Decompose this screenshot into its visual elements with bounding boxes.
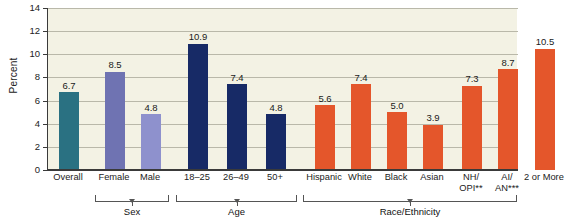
- bracket-tip-race: [407, 199, 413, 203]
- bar-value-label-hispanic: 5.6: [318, 94, 331, 106]
- y-axis-tick-label: 10: [18, 49, 40, 59]
- bar-value-label-white: 7.4: [354, 73, 367, 85]
- group-label-age: Age: [167, 206, 307, 217]
- bar-value-label-age-26-49: 7.4: [230, 73, 243, 85]
- x-axis-label-two-or-more: 2 or More: [504, 172, 569, 183]
- bar-value-label-two-or-more: 10.5: [536, 37, 555, 49]
- bar-two-or-more[interactable]: 10.5: [535, 49, 555, 171]
- bar-overall[interactable]: 6.7: [59, 92, 79, 170]
- y-axis-tick-label: 2: [18, 142, 40, 152]
- gridline: [48, 31, 518, 32]
- plot-area: 6.78.54.810.97.44.85.67.45.03.97.38.710.…: [47, 8, 517, 170]
- bar-value-label-overall: 6.7: [62, 81, 75, 93]
- y-axis-tick-label: 14: [18, 3, 40, 13]
- bar-age-26-49[interactable]: 7.4: [227, 84, 247, 170]
- bar-value-label-female: 8.5: [108, 60, 121, 72]
- bar-age-18-25[interactable]: 10.9: [188, 44, 208, 170]
- bracket-tip-age: [234, 199, 240, 203]
- bar-white[interactable]: 7.4: [351, 84, 371, 170]
- bar-black[interactable]: 5.0: [387, 112, 407, 170]
- bar-value-label-asian: 3.9: [426, 113, 439, 125]
- x-axis-line: [47, 169, 518, 171]
- gridline: [48, 8, 518, 9]
- y-axis-tick-label: 4: [18, 119, 40, 129]
- y-axis-tick-label: 6: [18, 96, 40, 106]
- bar-female[interactable]: 8.5: [105, 72, 125, 170]
- bar-value-label-black: 5.0: [390, 101, 403, 113]
- bar-value-label-age-18-25: 10.9: [189, 32, 208, 44]
- bar-value-label-age-50plus: 4.8: [269, 103, 282, 115]
- bar-value-label-male: 4.8: [144, 103, 157, 115]
- y-axis-title: Percent: [8, 31, 19, 121]
- bar-asian[interactable]: 3.9: [423, 125, 443, 170]
- bracket-tip-sex: [129, 199, 135, 203]
- bar-hispanic[interactable]: 5.6: [315, 105, 335, 170]
- bar-age-50plus[interactable]: 4.8: [266, 114, 286, 170]
- group-label-race: Race/Ethnicity: [340, 206, 480, 217]
- bar-nhopi[interactable]: 7.3: [462, 86, 482, 170]
- bar-aian[interactable]: 8.7: [498, 69, 518, 170]
- gridline: [48, 54, 518, 55]
- y-axis-tick-label: 8: [18, 72, 40, 82]
- bar-value-label-aian: 8.7: [501, 58, 514, 70]
- bar-male[interactable]: 4.8: [141, 114, 161, 170]
- bar-value-label-nhopi: 7.3: [465, 74, 478, 86]
- y-axis-tick-label: 12: [18, 26, 40, 36]
